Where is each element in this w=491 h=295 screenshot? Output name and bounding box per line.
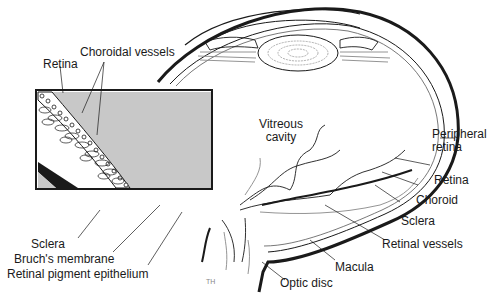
label-choroid: Choroid	[416, 194, 458, 207]
label-inset-retina: Retina	[43, 58, 78, 71]
label-macula: Macula	[335, 261, 374, 274]
label-vitreous-line2: cavity	[256, 131, 306, 144]
artist-mark: TH	[206, 278, 215, 285]
label-inset-sclera: Sclera	[31, 238, 65, 251]
label-vitreous-cavity: Vitreous cavity	[256, 118, 306, 144]
label-sclera: Sclera	[401, 215, 435, 228]
label-choroidal-vessels: Choroidal vessels	[80, 46, 175, 59]
label-peripheral-line2: retina	[432, 141, 487, 154]
label-optic-disc: Optic disc	[280, 277, 333, 290]
label-retina: Retina	[434, 174, 469, 187]
label-retinal-vessels: Retinal vessels	[382, 238, 463, 251]
label-bruchs-membrane: Bruch's membrane	[14, 253, 114, 266]
lens	[258, 35, 338, 71]
optic-nerve	[202, 218, 250, 274]
inset-magnification	[36, 90, 212, 189]
label-retinal-pigment-epithelium: Retinal pigment epithelium	[7, 268, 148, 281]
label-peripheral-retina: Peripheral retina	[432, 128, 487, 154]
